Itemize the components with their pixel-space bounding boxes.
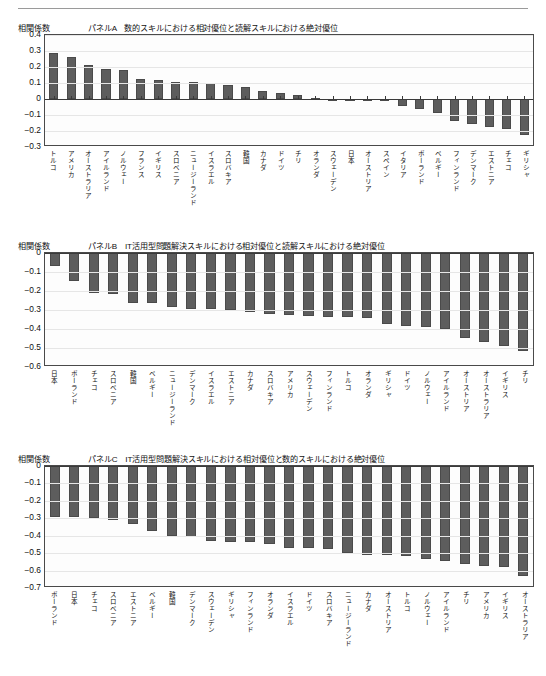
gridline <box>45 571 533 572</box>
bar <box>147 253 157 303</box>
x-tick-label: イギリス <box>501 591 508 619</box>
x-tick-label: スロバキア <box>325 591 332 626</box>
x-tick <box>350 96 351 99</box>
y-tick-label: 0.2 <box>29 61 41 71</box>
x-tick-label: ノルウェー <box>423 370 430 405</box>
x-tick-label: トルコ <box>403 591 410 612</box>
x-tick-label: ノルウェー <box>119 150 126 185</box>
bar <box>119 70 128 99</box>
x-tick <box>523 465 524 466</box>
bar <box>323 253 333 317</box>
panel-b-y-tick-labels: 0−0.1−0.2−0.3−0.4−0.5−0.6 <box>0 252 44 366</box>
x-tick <box>298 96 299 99</box>
x-tick <box>158 96 159 99</box>
x-tick <box>211 252 212 253</box>
panel-b: 相関係数 パネルB IT活用型問題解決スキルにおける相対優位と読解スキルにおける… <box>0 240 546 445</box>
bar <box>128 253 138 303</box>
y-tick-label: −0.4 <box>24 323 41 333</box>
x-tick <box>465 465 466 466</box>
x-tick-label: ニュージーランド <box>344 591 351 647</box>
bar <box>467 99 476 124</box>
y-tick-label: 0.4 <box>29 29 41 39</box>
x-tick-label: ギリシャ <box>383 370 390 398</box>
panel-a-y-tick-labels: 0.40.30.20.10−0.1−0.2−0.3 <box>0 34 44 146</box>
x-tick-label: オーストリア <box>364 150 371 192</box>
x-tick <box>387 252 388 253</box>
y-tick-label: −0.5 <box>24 547 41 557</box>
bar <box>50 466 60 517</box>
x-tick <box>484 465 485 466</box>
bar <box>520 99 529 135</box>
x-tick <box>94 465 95 466</box>
x-tick <box>437 96 438 99</box>
x-tick-label: アイルランド <box>102 150 109 192</box>
zero-baseline <box>45 466 533 467</box>
y-tick-label: 0 <box>36 460 41 470</box>
x-tick-label: トルコ <box>344 370 351 391</box>
x-tick-label: 韓国 <box>168 591 175 605</box>
x-tick-label: イスラエル <box>285 591 292 626</box>
bar <box>108 253 118 294</box>
y-tick-label: −0.3 <box>24 141 41 151</box>
x-tick-label: スウェーデン <box>329 150 336 192</box>
bar <box>460 253 470 338</box>
x-tick-label: 韓国 <box>129 370 136 384</box>
gridline <box>45 536 533 537</box>
x-tick-label: エストニア <box>487 150 494 185</box>
x-tick-label: スロバキア <box>266 370 273 405</box>
x-tick <box>245 96 246 99</box>
x-tick <box>315 96 316 99</box>
x-tick <box>333 96 334 99</box>
x-tick <box>55 465 56 466</box>
x-tick-label: スロベニア <box>109 591 116 626</box>
x-tick <box>489 96 490 99</box>
x-tick <box>94 252 95 253</box>
x-tick-label: フィンランド <box>246 591 253 633</box>
x-tick-label: イスラエル <box>207 370 214 405</box>
bar <box>415 99 424 109</box>
x-tick <box>367 465 368 466</box>
panel-b-plot-area <box>44 252 534 366</box>
x-tick <box>269 465 270 466</box>
x-tick <box>152 465 153 466</box>
x-tick <box>55 252 56 253</box>
y-tick-label: 0.1 <box>29 77 41 87</box>
x-tick-label: カナダ <box>259 150 266 171</box>
gridline <box>45 35 533 36</box>
bar <box>245 466 255 542</box>
bar <box>245 253 255 312</box>
x-tick-label: ベルギー <box>148 591 155 619</box>
x-tick <box>289 465 290 466</box>
y-tick-label: −0.5 <box>24 342 41 352</box>
gridline <box>45 553 533 554</box>
bar <box>206 253 216 309</box>
panel-c-title: パネルC IT活用型問題解決スキルにおける相対優位と数的スキルにおける絶対優位 <box>88 453 385 464</box>
x-tick-label: デンマーク <box>187 370 194 405</box>
x-tick <box>406 252 407 253</box>
x-tick <box>367 96 368 99</box>
x-tick-label: チリ <box>462 591 469 605</box>
x-tick <box>280 96 281 99</box>
bar <box>147 466 157 531</box>
panel-a-title: パネルA 数的スキルにおける相対優位と読解スキルにおける絶対優位 <box>88 22 338 33</box>
bar <box>342 466 352 553</box>
x-tick-label: イタリア <box>399 150 406 178</box>
y-tick-label: −0.2 <box>24 125 41 135</box>
x-tick <box>74 465 75 466</box>
y-tick-label: 0 <box>36 93 41 103</box>
gridline <box>45 483 533 484</box>
x-tick <box>250 465 251 466</box>
x-tick <box>133 465 134 466</box>
bar <box>69 253 79 281</box>
x-tick <box>54 96 55 99</box>
bar <box>499 253 509 346</box>
x-tick-label: ギリシャ <box>227 591 234 619</box>
bar <box>485 99 494 127</box>
x-tick-label: チリ <box>294 150 301 164</box>
bar <box>49 53 58 99</box>
x-tick-label: スロバキア <box>224 150 231 185</box>
x-tick <box>228 96 229 99</box>
x-tick-label: ポーランド <box>417 150 424 185</box>
x-tick <box>113 252 114 253</box>
x-tick-label: エストニア <box>227 370 234 405</box>
